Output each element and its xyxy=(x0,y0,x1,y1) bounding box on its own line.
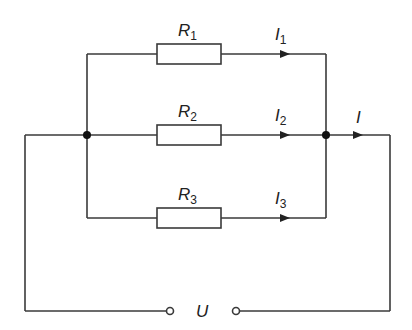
current-arrow-i3 xyxy=(280,214,290,222)
label-voltage: U xyxy=(196,302,209,321)
terminal-right xyxy=(233,308,240,315)
label-total-current: I xyxy=(356,108,361,127)
junction-node-right xyxy=(322,131,330,139)
label-r2: R2 xyxy=(178,102,197,124)
label-r1: R1 xyxy=(178,21,197,43)
current-arrow-i2 xyxy=(280,131,290,139)
label-r3: R3 xyxy=(178,185,197,207)
resistor-r3 xyxy=(157,208,221,228)
resistor-r1 xyxy=(157,44,221,64)
circuit-diagram: R1 I1 R2 I2 R3 I3 I U xyxy=(0,0,412,330)
junction-node-left xyxy=(83,131,91,139)
branch-2: R2 I2 xyxy=(87,102,326,145)
label-i2: I2 xyxy=(275,106,287,128)
branch-1: R1 I1 xyxy=(87,21,326,64)
current-arrow-total xyxy=(353,131,363,139)
current-arrow-i1 xyxy=(280,50,290,58)
label-i3: I3 xyxy=(275,189,287,211)
branch-3: R3 I3 xyxy=(87,185,326,228)
resistor-r2 xyxy=(157,125,221,145)
label-i1: I1 xyxy=(275,25,287,47)
terminal-left xyxy=(167,308,174,315)
